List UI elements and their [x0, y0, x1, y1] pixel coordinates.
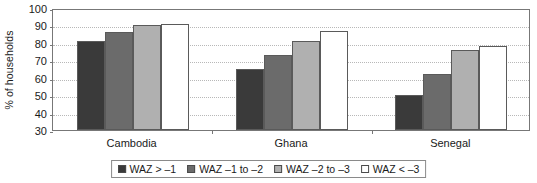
legend-label: WAZ > –1 [130, 164, 177, 175]
bar [264, 55, 292, 130]
legend-label: WAZ –1 to –2 [199, 164, 263, 175]
bar [479, 46, 507, 130]
x-tick-label: Senegal [430, 136, 470, 150]
bar [320, 31, 348, 130]
legend-swatch-icon [187, 165, 195, 173]
legend-label: WAZ –2 to –3 [286, 164, 350, 175]
x-tick-mark [212, 130, 213, 134]
plot-area [52, 9, 530, 131]
y-tick-label: 80 [35, 38, 47, 49]
bars-layer [53, 10, 529, 130]
y-tick-label: 60 [35, 73, 47, 84]
bar [236, 69, 264, 130]
y-tick-label: 50 [35, 91, 47, 102]
chart-legend: WAZ > –1WAZ –1 to –2WAZ –2 to –3WAZ < –3 [111, 160, 427, 178]
bar-group [212, 10, 371, 130]
bar [77, 41, 105, 130]
y-tick-label: 100 [29, 4, 47, 15]
legend-swatch-icon [274, 165, 282, 173]
legend-label: WAZ < –3 [373, 164, 420, 175]
y-tick-label: 90 [35, 21, 47, 32]
y-tick-label: 30 [35, 126, 47, 137]
bar [292, 41, 320, 130]
x-tick-mark [372, 130, 373, 134]
y-axis-tick-labels: 30405060708090100 [18, 9, 50, 131]
bar [451, 50, 479, 130]
bar-group [372, 10, 531, 130]
y-tick-mark [50, 132, 53, 133]
legend-swatch-icon [361, 165, 369, 173]
bar [395, 95, 423, 130]
legend-item[interactable]: WAZ < –3 [361, 164, 420, 175]
bar [105, 32, 133, 130]
bar-chart: % of households 30405060708090100 Cambod… [0, 0, 537, 183]
bar [423, 74, 451, 130]
bar [161, 24, 189, 130]
x-axis-tick-labels: CambodiaGhanaSenegal [52, 136, 530, 152]
y-tick-label: 70 [35, 56, 47, 67]
legend-item[interactable]: WAZ –1 to –2 [187, 164, 263, 175]
y-axis-title-text: % of households [3, 30, 15, 109]
bar-group [53, 10, 212, 130]
x-tick-label: Ghana [274, 136, 307, 150]
x-tick-label: Cambodia [107, 136, 157, 150]
legend-item[interactable]: WAZ > –1 [118, 164, 177, 175]
y-axis-title: % of households [0, 0, 18, 140]
y-tick-label: 40 [35, 108, 47, 119]
legend-item[interactable]: WAZ –2 to –3 [274, 164, 350, 175]
bar [133, 25, 161, 130]
legend-swatch-icon [118, 165, 126, 173]
